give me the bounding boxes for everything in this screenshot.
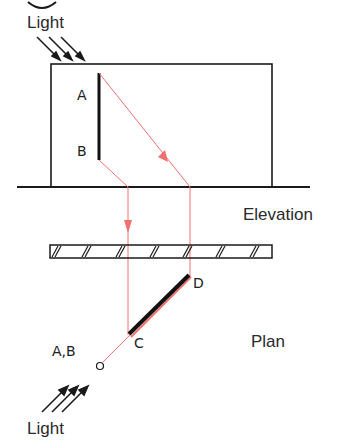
point-b-label: B [77,144,87,158]
figure-number-circle [28,2,56,8]
light-arrows-top-icon [37,37,84,60]
shadow-cd-red [131,277,191,337]
projection-arrow-down-icon [124,220,132,233]
wall-hatching [52,246,259,257]
point-a-label: A [77,88,87,102]
point-d-label: D [193,276,204,290]
point-ab-marker [97,363,104,370]
elevation-label: Elevation [243,206,313,223]
plan-wall [50,245,272,258]
elevation-box [51,64,272,187]
projection-arrow-diagonal-icon [158,150,168,162]
point-ab-label: A,B [52,344,76,358]
shadow-cd [129,275,189,334]
light-arrows-bottom-icon [42,386,88,412]
plan-label: Plan [251,333,285,350]
light-label-top: Light [27,14,64,31]
light-label-bottom: Light [27,420,64,437]
point-c-label: C [134,336,144,350]
